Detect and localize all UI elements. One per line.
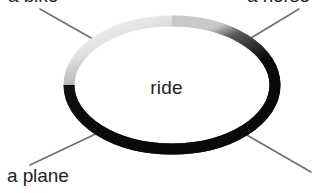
node-label-plane: a plane xyxy=(7,165,69,186)
connector-bottom-right-line xyxy=(245,134,311,172)
node-label-bike: a bike xyxy=(8,0,58,6)
connector-top-right-line xyxy=(246,9,299,41)
diagram-canvas: ride a bike a horse a plane xyxy=(0,0,333,193)
node-label-horse: a horse xyxy=(247,0,310,6)
center-node-label: ride xyxy=(0,77,333,98)
connector-top-left-line xyxy=(40,9,100,43)
connector-bottom-left-line xyxy=(30,131,102,165)
